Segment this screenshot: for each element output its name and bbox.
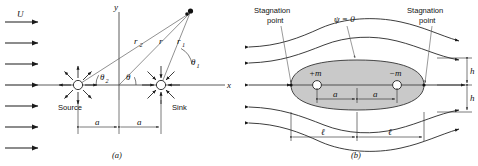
r1-subscript: 1	[182, 41, 185, 48]
theta2-arc	[96, 75, 99, 85]
half-height-lower-label: h	[470, 93, 475, 103]
sink-strength-label: −m	[389, 68, 402, 78]
panel-a-svg: U x y r 2 r r 1	[0, 0, 239, 166]
dimension-a-group: a a	[78, 100, 161, 134]
source-node	[73, 80, 82, 89]
y-axis-label: y	[113, 2, 118, 12]
panel-b-rankine-oval: +m −m Stagnation point Stagnation point …	[239, 0, 478, 166]
streamfunction-leader	[347, 26, 355, 58]
distance-a-right-label: a	[137, 117, 142, 127]
r1-label: r	[177, 36, 181, 46]
field-point-dot-shadow	[185, 12, 189, 16]
half-height-upper-label: h	[470, 66, 475, 76]
stagnation-right-label-line1: Stagnation	[407, 6, 443, 15]
ray-r2	[78, 13, 190, 85]
stagnation-right-leader	[425, 26, 432, 83]
panel-a-source-sink-geometry: U x y r 2 r r 1	[0, 0, 239, 166]
sink-label: Sink	[172, 103, 187, 112]
source-symbol	[59, 66, 97, 104]
field-point-dot	[188, 8, 193, 13]
theta2-subscript: 2	[106, 77, 109, 84]
figure-container: U x y r 2 r r 1	[0, 0, 478, 166]
panel-b-caption: (b)	[351, 150, 361, 160]
streamfunction-label: ψ = 0	[334, 14, 355, 24]
stagnation-left-leader	[281, 26, 291, 83]
theta2-label: θ	[100, 72, 105, 82]
theta1-subscript: 1	[197, 62, 200, 69]
radius-rays	[78, 13, 190, 85]
stagnation-left-label-line1: Stagnation	[254, 6, 290, 15]
ray-r1	[161, 13, 190, 85]
freestream-arrows	[5, 22, 38, 148]
theta1-label: θ	[191, 57, 196, 67]
stagnation-right-label-line2: point	[419, 16, 436, 25]
dimension-l-group: ℓ ℓ	[291, 112, 424, 141]
stagnation-point-left-marker	[289, 83, 292, 86]
panel-a-caption: (a)	[112, 150, 122, 160]
length-right-label: ℓ	[388, 127, 392, 137]
sink-symbol	[142, 66, 180, 104]
panel-b-svg: +m −m Stagnation point Stagnation point …	[239, 0, 478, 166]
radius-labels: r 2 r r 1	[134, 36, 185, 48]
distance-a-left-label: a	[95, 117, 100, 127]
streamlines-upper	[249, 19, 459, 63]
distance-a-right-label-b: a	[373, 89, 378, 99]
source-strength-label: +m	[309, 68, 322, 78]
dimension-h-group: h h	[437, 58, 475, 112]
freestream-velocity-label: U	[17, 9, 24, 19]
source-label: Source	[58, 103, 82, 112]
r-label: r	[159, 36, 163, 46]
theta-label: θ	[126, 72, 131, 82]
x-axis-label: x	[226, 80, 231, 90]
r2-label: r	[134, 36, 138, 46]
stagnation-left-label-line2: point	[267, 16, 284, 25]
theta-arc	[134, 77, 136, 85]
r2-subscript: 2	[140, 41, 143, 48]
stagnation-point-right-marker	[422, 83, 425, 86]
streamlines-lower	[249, 107, 459, 151]
length-left-label: ℓ	[321, 127, 325, 137]
sink-node	[156, 80, 165, 89]
distance-a-left-label-b: a	[333, 89, 338, 99]
